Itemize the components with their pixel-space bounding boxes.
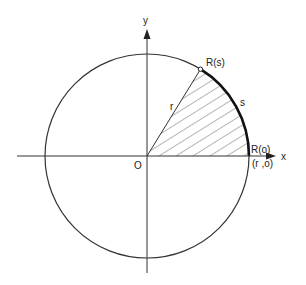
point-r-s-label: R(s) [206, 57, 225, 68]
point-r-o-label: R(o) [251, 144, 270, 155]
x-axis-label: x [281, 151, 286, 162]
radius-label: r [170, 101, 174, 112]
y-axis-arrow-icon [144, 29, 151, 39]
arc-length-label: s [240, 97, 245, 108]
point-r-o-coords: (r ,o) [252, 158, 273, 169]
origin-label: O [134, 160, 142, 171]
point-r-s [198, 67, 202, 71]
y-axis-label: y [143, 15, 148, 26]
unit-circle-diagram: y x O R(s) r s R(o) (r ,o) [0, 0, 306, 285]
